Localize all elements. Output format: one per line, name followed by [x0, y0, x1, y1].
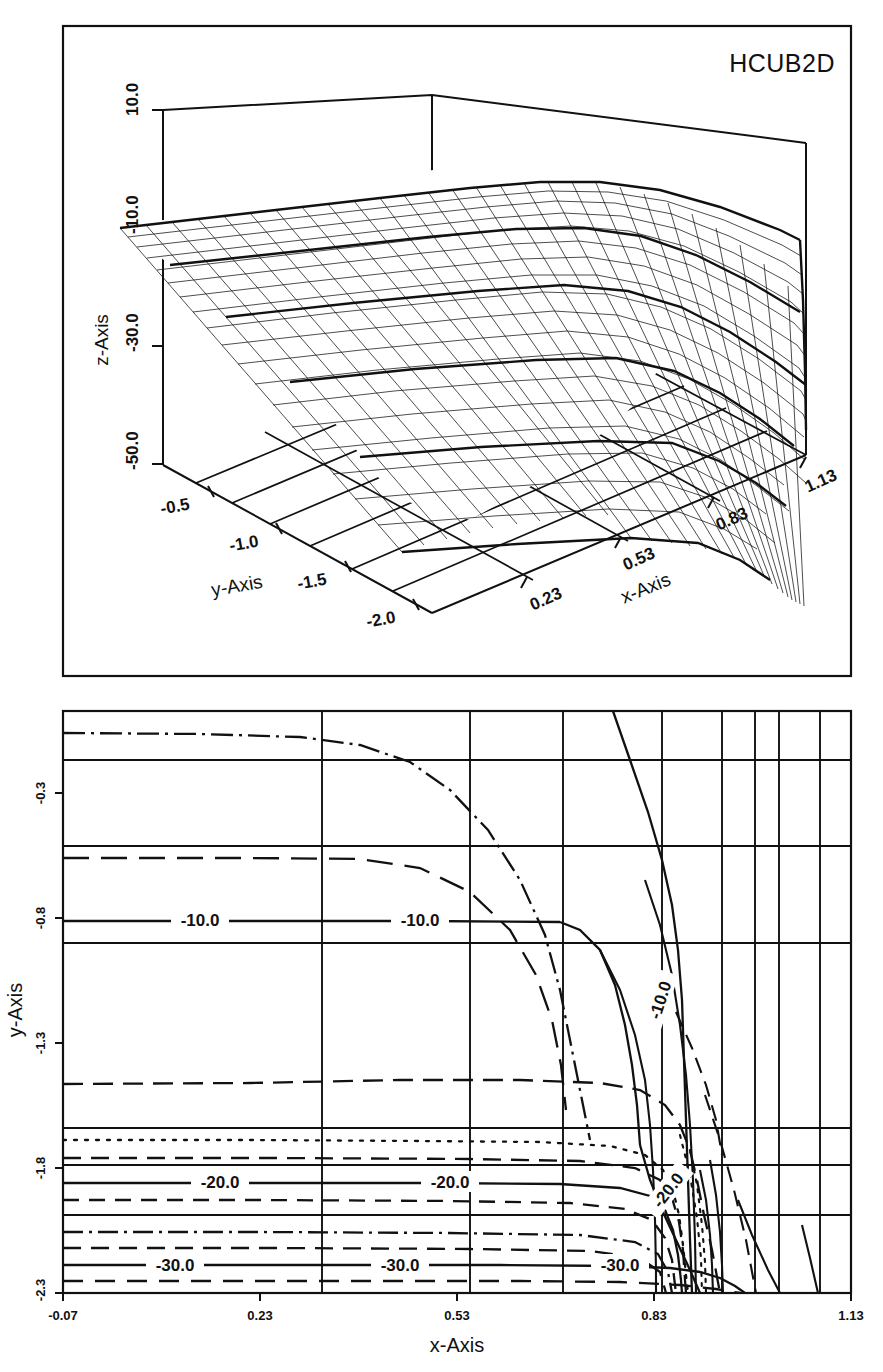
contour-svg: -0.3 -0.8 -1.3 -1.8 -2.3 y-Axis -0.07 0.… — [0, 690, 883, 1372]
surface-y-tick-2: -1.5 — [296, 570, 328, 594]
wireframe-surface — [120, 160, 806, 606]
contour-label-7: -30.0 — [381, 1256, 420, 1275]
surface-z-tick-2: -30.0 — [123, 313, 142, 352]
contour-level-dashed-upper — [63, 858, 566, 1110]
contour-label-6: -30.0 — [156, 1256, 195, 1275]
contour-label-4: -20.0 — [431, 1173, 470, 1192]
surface-svg: HCUB2D — [0, 0, 883, 690]
surface-z-tick-3: -50.0 — [123, 431, 142, 470]
contour-x-ticks — [63, 1293, 851, 1301]
contour-y-tick-0: -0.3 — [33, 782, 48, 804]
surface-z-tick-1: -10.0 — [123, 195, 142, 234]
contour-label-8: -30.0 — [601, 1256, 640, 1275]
contour-x-tick-0: -0.07 — [48, 1308, 78, 1323]
contour-x-tick-1: 0.23 — [247, 1308, 272, 1323]
contour-y-tick-1: -0.8 — [33, 907, 48, 929]
surface-x-tick-2: 0.83 — [713, 504, 751, 535]
contour-level-dashdot-upper — [63, 733, 590, 1140]
contour-label-0: -10.0 — [181, 911, 220, 930]
contour-strays-lower-right — [738, 1200, 818, 1293]
contour-y-tick-3: -1.8 — [33, 1157, 48, 1179]
surface-y-tick-0: -0.5 — [159, 495, 191, 519]
contour-label-2: -10.0 — [645, 979, 675, 1022]
contour-y-tick-4: -2.3 — [33, 1279, 48, 1301]
surface-y-axis-label: y-Axis — [210, 571, 265, 601]
surface-x-axis-label: x-Axis — [618, 569, 674, 608]
contour-x-tick-2: 0.53 — [444, 1308, 469, 1323]
surface-x-tick-1: 0.53 — [620, 544, 658, 575]
contour-level-labels: -10.0 -10.0 -10.0 -20.0 -20.0 — [146, 909, 694, 1275]
surface-z-axis-label: z-Axis — [91, 314, 112, 366]
contour-x-tick-3: 0.83 — [641, 1308, 666, 1323]
surface-3d-content — [120, 95, 806, 613]
surface-x-tick-0: 0.23 — [527, 584, 565, 615]
surface-x-tick-3: 1.13 — [802, 466, 840, 497]
contour-label-1: -10.0 — [401, 911, 440, 930]
surface-z-tick-0: 10.0 — [123, 83, 142, 116]
figure-page: HCUB2D — [0, 0, 883, 1372]
z-ticks — [152, 110, 163, 464]
contour-level-dashed-bottom — [63, 1281, 740, 1293]
contour-lines-group — [63, 711, 818, 1293]
page-title: HCUB2D — [729, 49, 835, 77]
surface-y-tick-1: -1.0 — [228, 532, 260, 556]
contour-y-tick-2: -1.3 — [33, 1032, 48, 1054]
contour-panel: -0.3 -0.8 -1.3 -1.8 -2.3 y-Axis -0.07 0.… — [0, 690, 883, 1372]
3d-surface-panel: HCUB2D — [0, 0, 883, 690]
contour-x-axis-label: x-Axis — [430, 1334, 484, 1356]
contour-y-ticks — [55, 793, 63, 1293]
contour-y-axis-label: y-Axis — [4, 983, 26, 1037]
contour-label-3: -20.0 — [201, 1173, 240, 1192]
contour-x-tick-4: 1.13 — [838, 1308, 863, 1323]
contour-level-dashed-3 — [63, 1200, 676, 1293]
surface-y-tick-3: -2.0 — [365, 608, 397, 632]
